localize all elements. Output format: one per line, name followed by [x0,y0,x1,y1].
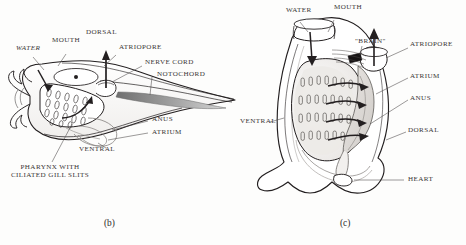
panel-b-lateral-view: WATER MOUTH DORSAL ATRIOPORE NERVE CORD … [0,0,236,245]
arrowhead-atriopore-out-b [102,50,110,60]
panel-c-anterior-view: WATER MOUTH "BRAIN" ATRIOPORE ATRIUM ANU… [236,0,466,245]
label-atriopore-b: ATRIOPORE [119,43,162,52]
label-atrium-b: ATRIUM [152,128,182,137]
heart-shape-c [334,174,352,186]
label-mouth-b: MOUTH [52,36,80,45]
label-nerve-cord-b: NERVE CORD [145,58,194,67]
oral-siphon-rim-c [294,19,334,29]
oral-hood-lower-b [10,104,30,128]
caption-panel-c: (c) [340,218,350,228]
label-atriopore-c: ATRIOPORE [410,40,453,49]
caption-panel-b: (b) [104,218,115,228]
label-anus-c: ANUS [410,94,431,103]
label-heart-c: HEART [408,175,433,184]
label-dorsal-c: DORSAL [408,126,439,135]
label-notochord-b: NOTOCHORD [157,70,205,79]
label-atrium-c: ATRIUM [410,72,440,81]
label-ventral-c: VENTRAL [240,117,276,126]
label-water-b: WATER [16,44,40,53]
label-mouth-c: MOUTH [334,3,362,12]
panel-b-drawing [0,0,236,245]
label-ventral-b: VENTRAL [79,145,115,154]
label-water-c: WATER [286,6,312,15]
label-anus-b: ANUS [152,115,173,124]
label-dorsal-b: DORSAL [86,28,117,37]
oral-cirri-b [15,88,24,108]
eyespot-b [74,75,78,79]
label-brain-c: "BRAIN" [355,37,386,46]
figure-root: WATER MOUTH DORSAL ATRIOPORE NERVE CORD … [0,0,466,245]
label-pharynx-with-ciliated-gill-slits-b: PHARYNX WITH CILIATED GILL SLITS [8,163,92,180]
